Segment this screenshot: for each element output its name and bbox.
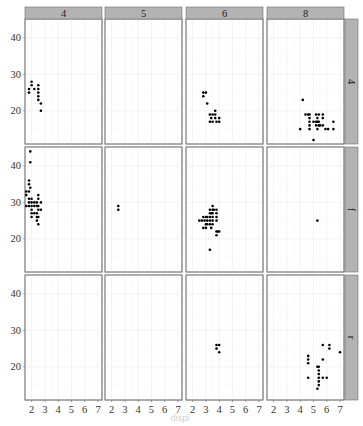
data-point <box>299 128 302 131</box>
x-tick-label: 5 <box>69 404 74 415</box>
data-point <box>218 121 221 124</box>
data-point <box>209 249 212 252</box>
col-strip-label: 4 <box>61 8 67 19</box>
row-strip-label: r <box>346 336 357 340</box>
col-strip-5: 5 <box>105 7 182 19</box>
data-point <box>307 355 310 358</box>
data-point <box>316 366 319 369</box>
data-point <box>206 219 209 222</box>
data-point <box>209 208 212 211</box>
data-point <box>29 187 32 190</box>
x-tick-label: 7 <box>256 404 261 415</box>
data-point <box>211 113 214 116</box>
y-tick-label: 30 <box>11 197 22 208</box>
data-point <box>316 121 319 124</box>
x-tick-label: 5 <box>149 404 154 415</box>
x-tick-label: 5 <box>311 404 316 415</box>
facet-panel-4-5 <box>105 19 182 144</box>
facet-panel-4-8 <box>267 19 344 144</box>
data-point <box>206 102 209 105</box>
data-point <box>205 227 208 230</box>
data-point <box>322 113 325 116</box>
facet-panel-r-8 <box>267 275 344 400</box>
data-point <box>202 227 205 230</box>
data-point <box>37 205 40 208</box>
facet-panel-f-4 <box>25 147 102 272</box>
data-point <box>37 208 40 211</box>
x-tick-label: 2 <box>109 404 114 415</box>
col-strip-label: 5 <box>141 8 146 19</box>
data-point <box>214 117 217 120</box>
data-point <box>318 113 321 116</box>
panel-layer <box>25 19 344 400</box>
data-point <box>209 113 212 116</box>
x-tick-label: 3 <box>284 404 289 415</box>
data-point <box>322 358 325 361</box>
data-point <box>28 201 31 204</box>
data-point <box>304 113 307 116</box>
data-point <box>215 208 218 211</box>
y-tick-label: 30 <box>11 69 22 80</box>
data-point <box>316 128 319 131</box>
faceted-scatter-chart: 4568 4fr 203040203040203040 234567234567… <box>0 0 363 426</box>
data-point <box>37 194 40 197</box>
data-point <box>25 205 28 208</box>
data-point <box>37 88 40 91</box>
data-point <box>308 117 311 120</box>
x-tick-label: 6 <box>324 404 329 415</box>
facet-panel-r-6 <box>186 275 263 400</box>
data-point <box>206 223 209 226</box>
data-point <box>308 128 311 131</box>
data-point <box>202 216 205 219</box>
data-point <box>209 216 212 219</box>
data-point <box>210 117 213 120</box>
data-point <box>198 219 201 222</box>
x-tick-label: 4 <box>136 404 142 415</box>
data-point <box>328 347 331 350</box>
data-point <box>28 205 31 208</box>
data-point <box>33 212 36 215</box>
col-strip-label: 6 <box>222 8 227 19</box>
data-point <box>37 99 40 102</box>
data-point <box>28 88 31 91</box>
row-strip-f: f <box>345 147 358 272</box>
facet-panel-r-4 <box>25 275 102 400</box>
data-point <box>215 347 218 350</box>
data-point <box>302 99 305 102</box>
data-point <box>307 377 310 380</box>
row-strip-label: 4 <box>346 79 357 85</box>
data-point <box>33 201 36 204</box>
data-point <box>25 194 28 197</box>
data-point <box>33 205 36 208</box>
data-point <box>201 219 204 222</box>
data-point <box>28 197 31 200</box>
data-point <box>40 201 43 204</box>
x-tick-label: 4 <box>298 404 304 415</box>
facet-panel-4-6 <box>186 19 263 144</box>
data-point <box>332 128 335 131</box>
facet-panel-r-5 <box>105 275 182 400</box>
data-point <box>318 377 321 380</box>
x-tick-label: 6 <box>82 404 87 415</box>
col-strip-6: 6 <box>186 7 263 19</box>
row-strip-label: f <box>346 208 357 212</box>
x-tick-label: 2 <box>271 404 276 415</box>
data-point <box>203 219 206 222</box>
data-point <box>215 344 218 347</box>
facet-panel-f-8 <box>267 147 344 272</box>
y-tick-label: 40 <box>11 32 22 43</box>
data-point <box>316 219 319 222</box>
data-point <box>28 91 31 94</box>
data-point <box>322 377 325 380</box>
data-point <box>30 205 33 208</box>
data-point <box>211 219 214 222</box>
data-point <box>30 80 33 83</box>
data-point <box>36 212 39 215</box>
x-tick-label: 5 <box>230 404 235 415</box>
data-point <box>214 110 217 113</box>
data-point <box>211 212 214 215</box>
data-point <box>332 121 335 124</box>
data-point <box>308 124 311 127</box>
x-tick-label: 7 <box>337 404 342 415</box>
row-strips: 4fr <box>345 19 358 400</box>
